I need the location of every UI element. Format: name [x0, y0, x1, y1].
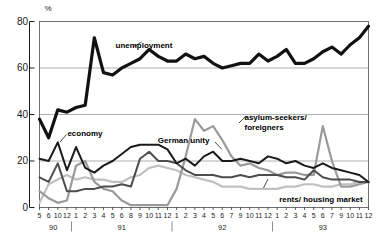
x-axis-tick-23: 10 — [246, 212, 254, 219]
x-axis-tick-7: 4 — [102, 212, 106, 219]
x-axis-tick-1: 6 — [47, 212, 51, 219]
x-axis-tick-20: 6 — [220, 212, 224, 219]
annotation-leader-2 — [215, 142, 222, 149]
x-axis-tick-9: 6 — [120, 212, 124, 219]
x-axis-tick-24: 11 — [255, 212, 262, 219]
x-axis-tick-30: 5 — [312, 212, 316, 219]
x-axis-tick-3: 12 — [63, 212, 71, 219]
x-axis-tick-18: 4 — [202, 212, 206, 219]
series-label-4: rents/ housing market — [279, 195, 363, 204]
x-axis-tick-0: 5 — [38, 212, 42, 219]
x-axis-tick-34: 10 — [346, 212, 354, 219]
x-axis-tick-19: 5 — [211, 212, 215, 219]
x-axis-tick-6: 3 — [92, 212, 96, 219]
x-axis-tick-32: 7 — [330, 212, 334, 219]
x-axis-tick-25: 12 — [264, 212, 272, 219]
chart-container: % 020406080 5610121234568910111212345679… — [0, 0, 385, 249]
x-axis-tick-36: 12 — [365, 212, 373, 219]
x-axis-tick-33: 9 — [339, 212, 343, 219]
x-axis-tick-21: 7 — [229, 212, 233, 219]
x-axis-tick-8: 5 — [111, 212, 115, 219]
x-axis-tick-10: 8 — [129, 212, 133, 219]
x-axis-tick-31: 6 — [321, 212, 325, 219]
x-axis-year-93: 93 — [319, 223, 327, 232]
x-axis-year-91: 91 — [118, 223, 126, 232]
x-axis-tick-5: 2 — [83, 212, 87, 219]
x-axis-tick-16: 2 — [184, 212, 188, 219]
x-axis-tick-17: 3 — [193, 212, 197, 219]
x-axis-tick-35: 11 — [356, 212, 363, 219]
x-axis-year-92: 92 — [218, 223, 226, 232]
x-axis-tick-11: 9 — [138, 212, 142, 219]
series-label-2: German unity — [158, 136, 210, 145]
series-label-1: economy — [67, 129, 102, 138]
series-label-0: unemployment — [116, 41, 173, 50]
x-axis-tick-2: 10 — [54, 212, 62, 219]
x-axis-tick-14: 12 — [164, 212, 172, 219]
x-axis-tick-22: 9 — [239, 212, 243, 219]
annotation-leader-4 — [264, 179, 269, 188]
x-axis-tick-12: 10 — [145, 212, 153, 219]
series-label-3: asylum-seekers/ foreigners — [244, 113, 322, 132]
x-axis-year-90: 90 — [49, 223, 57, 232]
x-axis-tick-28: 3 — [293, 212, 297, 219]
x-axis-tick-13: 11 — [155, 212, 162, 219]
x-axis-tick-26: 1 — [275, 212, 279, 219]
x-axis-tick-4: 1 — [74, 212, 78, 219]
x-axis-tick-15: 1 — [175, 212, 179, 219]
x-axis-tick-29: 4 — [303, 212, 307, 219]
x-axis-tick-27: 2 — [284, 212, 288, 219]
annotation-leader-1 — [60, 135, 67, 143]
